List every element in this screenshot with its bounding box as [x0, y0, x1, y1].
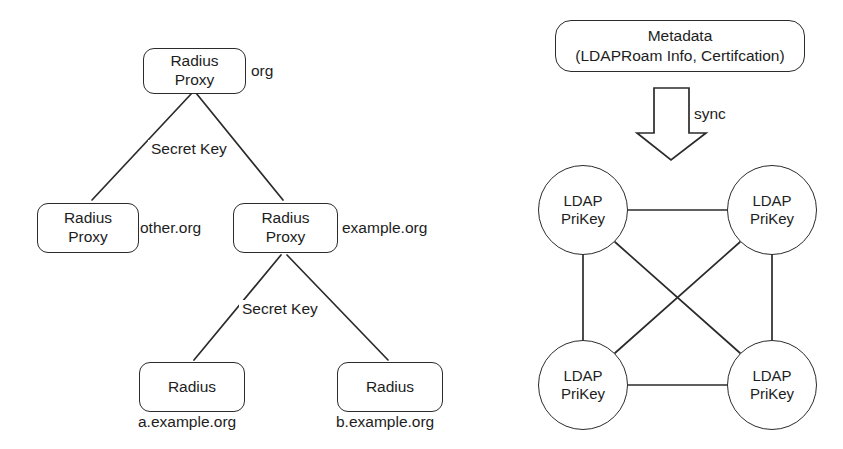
node-label-line2: Proxy	[68, 228, 108, 247]
down-block-arrow-icon	[637, 88, 706, 160]
node-radius-a-example-org[interactable]: Radius	[139, 362, 245, 412]
node-ldap-prikey-top-right[interactable]: LDAP PriKey	[727, 165, 817, 255]
realm-label-b-example-org: b.example.org	[336, 413, 434, 431]
node-label-line1: LDAP	[752, 192, 791, 210]
node-label-line2: PriKey	[561, 210, 605, 228]
node-label-line1: LDAP	[563, 367, 602, 385]
node-label-line2: PriKey	[750, 210, 794, 228]
node-ldap-prikey-bottom-right[interactable]: LDAP PriKey	[727, 340, 817, 430]
diagram-canvas: Radius Proxy org Secret Key Radius Proxy…	[0, 0, 843, 449]
node-radius-proxy-org[interactable]: Radius Proxy	[143, 48, 246, 94]
node-label-line2: PriKey	[750, 385, 794, 403]
edge-label-secret-key-upper: Secret Key	[148, 140, 230, 158]
node-radius-b-example-org[interactable]: Radius	[337, 362, 443, 412]
edge-label-secret-key-lower: Secret Key	[239, 300, 321, 318]
node-label-line1: Radius	[64, 209, 112, 228]
realm-label-org: org	[251, 62, 273, 80]
sync-arrow-label: sync	[694, 105, 726, 123]
node-label-line1: Radius	[170, 52, 218, 71]
node-label-line2: PriKey	[561, 385, 605, 403]
node-label-line2: Proxy	[266, 228, 306, 247]
node-label-line2: Proxy	[175, 71, 215, 90]
metadata-box[interactable]: Metadata (LDAPRoam Info, Certifcation)	[555, 20, 805, 72]
node-ldap-prikey-bottom-left[interactable]: LDAP PriKey	[538, 340, 628, 430]
realm-label-other-org: other.org	[140, 219, 201, 237]
node-label-line1: Radius	[261, 209, 309, 228]
node-label-line1: Radius	[168, 378, 216, 397]
metadata-title: Metadata	[648, 26, 713, 46]
node-radius-proxy-example-org[interactable]: Radius Proxy	[233, 203, 338, 253]
metadata-subtitle: (LDAPRoam Info, Certifcation)	[575, 46, 784, 66]
node-radius-proxy-other-org[interactable]: Radius Proxy	[37, 203, 139, 253]
node-label-line1: LDAP	[752, 367, 791, 385]
node-ldap-prikey-top-left[interactable]: LDAP PriKey	[538, 165, 628, 255]
node-label-line1: LDAP	[563, 192, 602, 210]
realm-label-a-example-org: a.example.org	[138, 413, 236, 431]
realm-label-example-org: example.org	[342, 219, 427, 237]
node-label-line1: Radius	[366, 378, 414, 397]
